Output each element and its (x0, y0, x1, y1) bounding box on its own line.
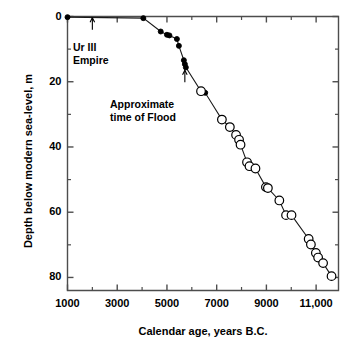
sea-level-curve-figure: Depth below modern sea-level, m Calendar… (0, 0, 354, 347)
annotation-line: Approximate (110, 98, 176, 111)
open-circle-marker (275, 196, 284, 205)
open-circle-marker (307, 240, 316, 249)
filled-circle-marker (141, 16, 146, 21)
x-tick-label: 5000 (142, 297, 192, 309)
x-tick-label: 9000 (241, 297, 291, 309)
filled-circle-marker (65, 15, 70, 20)
x-tick-label: 7000 (192, 297, 242, 309)
filled-circle-marker (183, 65, 188, 70)
filled-circle-marker (167, 33, 172, 38)
plot-canvas (0, 0, 354, 347)
open-circle-marker (218, 115, 227, 124)
annotation-line: Ur III (73, 41, 109, 54)
y-tick-label: 80 (28, 270, 62, 282)
open-circle-marker (251, 164, 260, 173)
open-circle-marker (197, 87, 206, 96)
filled-circle-marker (174, 37, 179, 42)
open-circle-marker (264, 184, 273, 193)
y-tick-label: 0 (28, 10, 62, 22)
y-tick-label: 40 (28, 140, 62, 152)
x-tick-label: 11,000 (291, 297, 341, 309)
filled-circle-marker (158, 29, 163, 34)
open-circle-marker (319, 259, 328, 268)
annotation-line: Empire (73, 54, 109, 67)
x-axis-title: Calendar age, years B.C. (67, 325, 339, 337)
filled-circle-marker (176, 43, 181, 48)
open-circle-marker (327, 272, 336, 281)
annotation-approximate-time-of-flood: Approximate time of Flood (110, 98, 176, 124)
x-tick-label: 3000 (92, 297, 142, 309)
open-circle-marker (236, 140, 245, 149)
annotation-line: time of Flood (110, 111, 176, 124)
y-tick-label: 60 (28, 205, 62, 217)
open-circle-marker (287, 211, 296, 220)
open-circle-marker (226, 123, 235, 132)
x-tick-label: 1000 (43, 297, 93, 309)
annotation-ur-iii-empire: Ur III Empire (73, 41, 109, 67)
y-tick-label: 20 (28, 75, 62, 87)
